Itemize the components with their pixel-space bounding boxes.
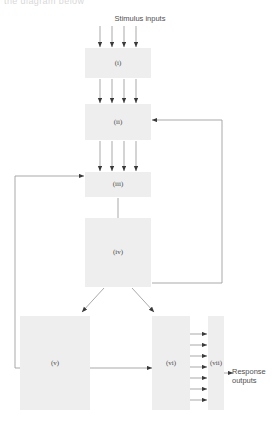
node-vi-label: (vi) [166, 360, 176, 367]
flow-diagram-figure: the diagram below [0, 0, 279, 427]
node-iv-label: (iv) [113, 249, 123, 256]
node-vi[interactable]: (vi) [152, 316, 190, 410]
node-iii[interactable]: (iii) [85, 172, 151, 197]
node-v[interactable]: (v) [20, 316, 90, 410]
edges-vi-to-vii [190, 334, 207, 400]
response-outputs-label: Response outputs [232, 367, 278, 385]
node-i[interactable]: (i) [85, 48, 151, 78]
node-ii-label: (ii) [114, 119, 123, 126]
node-v-label: (v) [51, 360, 59, 367]
edges-stimulus-to-i [100, 26, 136, 47]
node-iv[interactable]: (iv) [85, 218, 151, 287]
stimulus-inputs-label: Stimulus inputs [88, 14, 192, 23]
edge-iv-to-v [82, 288, 104, 312]
node-vii[interactable]: (vii) [208, 316, 224, 410]
node-iii-label: (iii) [113, 181, 124, 188]
edges-ii-to-iii [100, 141, 136, 171]
node-i-label: (i) [115, 60, 122, 67]
edge-iv-to-vi [132, 288, 154, 312]
node-ii[interactable]: (ii) [85, 104, 151, 140]
edge-feedback-right [152, 120, 222, 283]
edges-i-to-ii [100, 79, 136, 103]
node-vii-label: (vii) [210, 360, 222, 367]
